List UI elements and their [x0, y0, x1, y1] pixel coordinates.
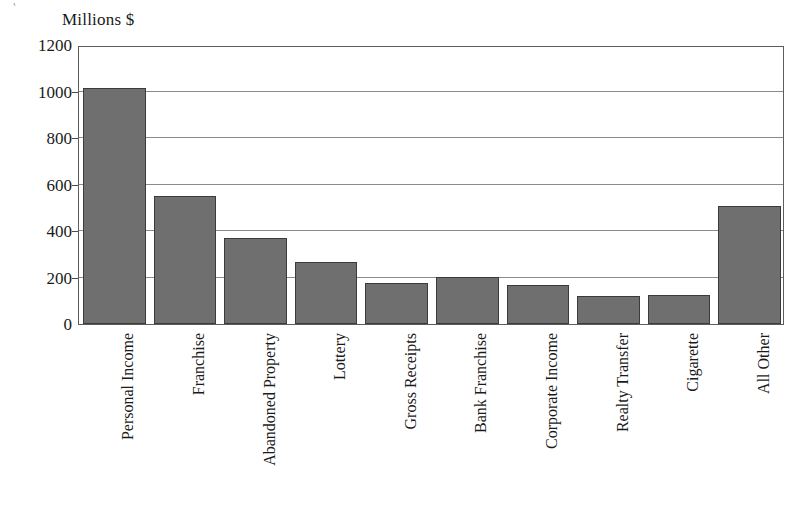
x-axis-label: Abandoned Property — [262, 333, 278, 466]
bars-layer — [79, 47, 783, 324]
bar — [718, 206, 780, 324]
x-axis-category-labels: Personal IncomeFranchiseAbandoned Proper… — [78, 325, 784, 517]
x-axis-label: Franchise — [191, 333, 207, 395]
bar — [83, 88, 145, 324]
y-axis: 020040060080010001200 — [0, 46, 72, 325]
y-axis-title: Millions $ — [62, 10, 134, 30]
scan-artifact-mark: ' — [13, 1, 22, 12]
y-tick-label-1000: 1000 — [10, 84, 72, 101]
y-tick-label-0: 0 — [10, 316, 72, 333]
bar-chart-figure: ' Millions $ 020040060080010001200 Perso… — [0, 0, 801, 517]
plot-area — [78, 46, 784, 325]
x-axis-label: Corporate Income — [544, 333, 560, 449]
x-axis-label: Bank Franchise — [473, 333, 489, 433]
x-axis-label: All Other — [756, 333, 772, 394]
y-tick-label-200: 200 — [10, 270, 72, 287]
bar — [648, 295, 710, 324]
y-tick-label-1200: 1200 — [10, 37, 72, 54]
x-axis-label: Lottery — [332, 333, 348, 380]
y-tick-label-800: 800 — [10, 130, 72, 147]
bar — [224, 238, 286, 324]
bar — [436, 277, 498, 324]
x-axis-label: Realty Transfer — [615, 333, 631, 432]
x-axis-label: Personal Income — [120, 333, 136, 440]
bar — [154, 196, 216, 324]
x-axis-label: Gross Receipts — [403, 333, 419, 429]
y-tick-label-400: 400 — [10, 223, 72, 240]
bar — [365, 283, 427, 324]
bar — [295, 262, 357, 324]
x-axis-label: Cigarette — [685, 333, 701, 392]
y-tick-label-600: 600 — [10, 177, 72, 194]
bar — [507, 285, 569, 324]
bar — [577, 296, 639, 324]
